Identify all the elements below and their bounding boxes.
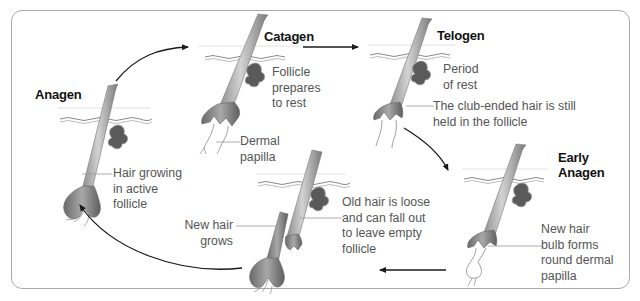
stage-label-telogen: Telogen bbox=[437, 28, 484, 43]
annotation-old-hair: Old hair is loose and can fall out to le… bbox=[342, 195, 430, 257]
stage-label-anagen: Anagen bbox=[35, 87, 81, 102]
annotation-anagen: Hair growing in active follicle bbox=[113, 166, 182, 213]
annotation-early-anagen: New hair bulb forms round dermal papilla bbox=[541, 222, 613, 284]
stage-label-catagen: Catagen bbox=[264, 29, 314, 44]
annotation-new-hair-grows: New hair grows bbox=[181, 218, 233, 249]
stage-label-anagen-2: Anagen bbox=[558, 165, 604, 180]
annotation-telogen: Period of rest bbox=[443, 62, 479, 93]
stage-label-early-anagen: Early Anagen bbox=[558, 150, 604, 180]
annotation-dermal-papilla: Dermal papilla bbox=[240, 134, 280, 165]
annotation-catagen: Follicle prepares to rest bbox=[272, 65, 321, 112]
early-anagen-hair-icon bbox=[462, 144, 548, 286]
arrow-telogen-to-early-anagen-icon bbox=[404, 128, 448, 170]
arrow-anagen-to-catagen-icon bbox=[116, 47, 188, 81]
shedding-hair-icon bbox=[250, 150, 350, 294]
stage-label-early: Early bbox=[558, 150, 604, 165]
annotation-club-ended-hair: The club-ended hair is still held in the… bbox=[433, 99, 576, 130]
